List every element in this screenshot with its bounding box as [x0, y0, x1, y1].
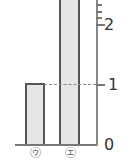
x-axis-baseline [15, 144, 98, 146]
y-tick-label-1: 1 [108, 77, 118, 93]
y-tick-label-2: 2 [104, 17, 114, 33]
major-tick-1 [96, 84, 105, 86]
bar-u [25, 83, 45, 146]
y-tick-label-0: 0 [104, 137, 114, 153]
minor-tick [96, 17, 102, 19]
bar-e [59, 0, 80, 146]
y-axis [96, 0, 98, 146]
minor-tick [96, 11, 102, 13]
minor-tick [96, 4, 102, 6]
reference-line-1 [44, 84, 96, 85]
x-label-e: ㋓ [63, 148, 77, 160]
x-label-u: ㋒ [28, 148, 42, 160]
